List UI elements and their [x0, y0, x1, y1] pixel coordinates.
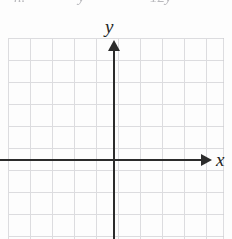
x-axis-label: x — [216, 150, 224, 169]
grid-lines — [8, 38, 224, 239]
cutoff-text-fragment-2: y — [78, 0, 85, 6]
x-axis-line — [0, 159, 203, 161]
y-axis-arrowhead-icon — [108, 40, 120, 51]
y-axis-line — [113, 48, 115, 239]
grid-right-border-line — [223, 38, 224, 239]
top-cutoff-text-strip: n. y 12y — [0, 0, 232, 12]
x-axis-arrowhead-icon — [201, 154, 212, 166]
cutoff-text-fragment-1: n. — [14, 0, 25, 6]
cutoff-text-fragment-3: 12y — [150, 0, 172, 6]
y-axis-label: y — [105, 17, 113, 36]
coordinate-grid-figure: n. y 12y y x — [0, 0, 232, 239]
